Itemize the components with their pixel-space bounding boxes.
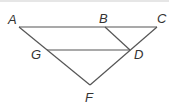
- point-label-d: D: [134, 47, 143, 62]
- point-label-f: F: [85, 90, 94, 105]
- point-label-b: B: [99, 11, 108, 26]
- segment-BD: [105, 27, 130, 50]
- point-label-c: C: [157, 11, 167, 26]
- point-label-a: A: [7, 12, 17, 27]
- segment-CF: [90, 27, 157, 85]
- segment-AF: [19, 27, 90, 85]
- geometry-diagram: A B C G D F: [0, 0, 169, 110]
- point-label-g: G: [31, 47, 41, 62]
